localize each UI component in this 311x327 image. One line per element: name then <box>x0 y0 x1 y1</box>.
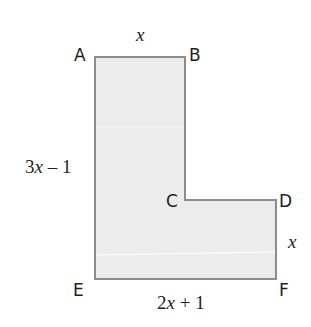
dimension-bottom-rest: + 1 <box>175 292 205 313</box>
vertex-label-f: F <box>279 280 289 300</box>
dimension-left-rest: – 1 <box>43 156 72 177</box>
dimension-label-top: x <box>135 24 145 45</box>
dimension-label-right: x <box>287 231 297 252</box>
vertex-label-b: B <box>189 45 201 65</box>
vertex-label-d: D <box>279 191 292 211</box>
dimension-right-var: x <box>287 231 297 252</box>
vertex-label-a: A <box>74 45 86 65</box>
dimension-left-lead: 3 <box>25 156 35 177</box>
vertex-label-e: E <box>73 280 84 300</box>
dimension-label-left: 3x – 1 <box>25 156 71 177</box>
l-shape-polygon <box>95 57 276 279</box>
dimension-bottom-lead: 2 <box>157 292 167 313</box>
l-shape-diagram: A B C D E F x 3x – 1 x 2x + 1 <box>0 0 311 327</box>
dimension-label-bottom: 2x + 1 <box>157 292 205 313</box>
dimension-top-var: x <box>135 24 145 45</box>
vertex-label-c: C <box>166 191 178 211</box>
